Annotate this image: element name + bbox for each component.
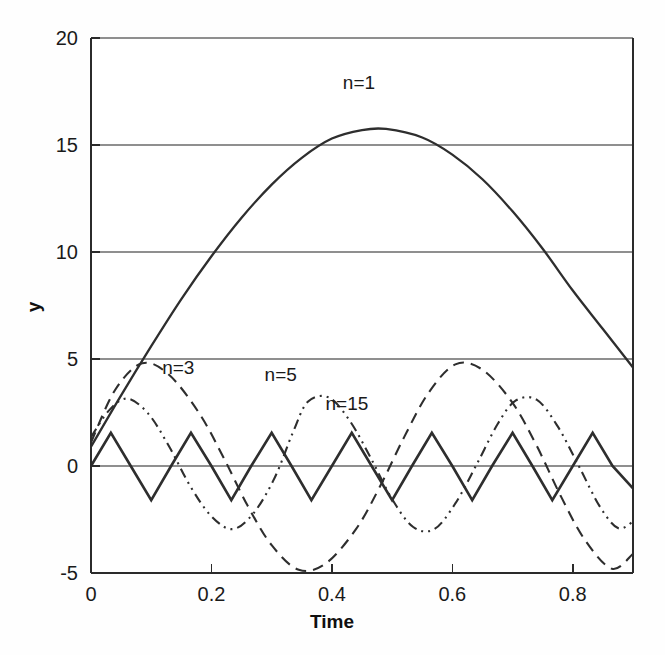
- y-tick-label-20: 20: [56, 27, 78, 49]
- y-tick-label--5: -5: [60, 562, 78, 584]
- series-label-n5: n=5: [265, 364, 297, 385]
- series-label-n15: n=15: [326, 393, 369, 414]
- chart-figure: 20151050-5 00.20.40.60.8 Time y n=1n=3n=…: [0, 0, 665, 655]
- x-axis-title: Time: [310, 611, 354, 632]
- y-tick-label-15: 15: [56, 134, 78, 156]
- x-tick-label-0.8: 0.8: [559, 583, 587, 605]
- plot-area-background: [91, 38, 633, 573]
- line-chart: 20151050-5 00.20.40.60.8 Time y n=1n=3n=…: [0, 0, 665, 655]
- x-tick-label-0.6: 0.6: [438, 583, 466, 605]
- y-axis-title: y: [23, 301, 44, 312]
- y-tick-label-0: 0: [67, 455, 78, 477]
- x-tick-label-0.2: 0.2: [198, 583, 226, 605]
- x-tick-label-0: 0: [85, 583, 96, 605]
- series-label-n1: n=1: [343, 72, 375, 93]
- y-tick-label-5: 5: [67, 348, 78, 370]
- series-label-n3: n=3: [162, 357, 194, 378]
- x-tick-label-0.4: 0.4: [318, 583, 346, 605]
- y-tick-label-10: 10: [56, 241, 78, 263]
